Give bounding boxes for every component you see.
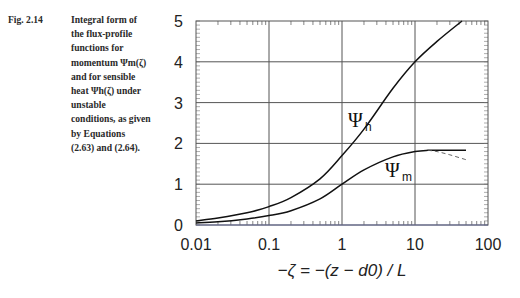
y-axis-tick-labels: 012345 [174,13,183,234]
curve-psi-m-dashed [428,150,466,159]
flux-profile-chart: 012345 0.010.1110100 Ψ h Ψ m −ζ = −(z − … [0,0,520,298]
x-tick-label: 0.01 [180,236,211,253]
x-axis-label: −ζ = −(z − d0) / L [278,261,407,280]
series-label-psi-h: Ψ h [348,109,372,134]
curve-psi-m [196,150,466,223]
x-tick-label: 0.1 [258,236,280,253]
grid-lines [196,21,488,225]
y-tick-label: 5 [174,13,183,30]
x-tick-label: 10 [406,236,424,253]
psi-m-subscript: m [402,170,412,184]
x-tick-label: 1 [338,236,347,253]
y-tick-label: 0 [174,217,183,234]
series-label-psi-m: Ψ m [385,159,412,184]
y-tick-label: 2 [174,135,183,152]
psi-h-subscript: h [365,120,372,134]
curves [196,21,466,223]
curve-psi-h [196,21,462,221]
y-tick-label: 4 [174,54,183,71]
y-tick-label: 3 [174,95,183,112]
x-tick-label: 100 [475,236,502,253]
psi-m-symbol: Ψ [385,159,400,181]
y-tick-label: 1 [174,176,183,193]
psi-h-symbol: Ψ [348,109,363,131]
x-axis-tick-labels: 0.010.1110100 [180,236,501,253]
